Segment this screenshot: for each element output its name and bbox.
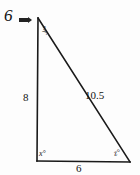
side-label-base: 6 [76,163,82,174]
side-label-left-leg: 8 [23,92,29,103]
triangle-base [37,161,130,162]
geometry-figure: 6 8 10.5 6 y° x° z° [0,0,140,175]
triangle-left-leg [37,18,38,161]
angle-label-bottom-left: x° [39,150,46,158]
triangle-hypotenuse [38,18,130,162]
side-label-hypotenuse: 10.5 [85,90,104,101]
